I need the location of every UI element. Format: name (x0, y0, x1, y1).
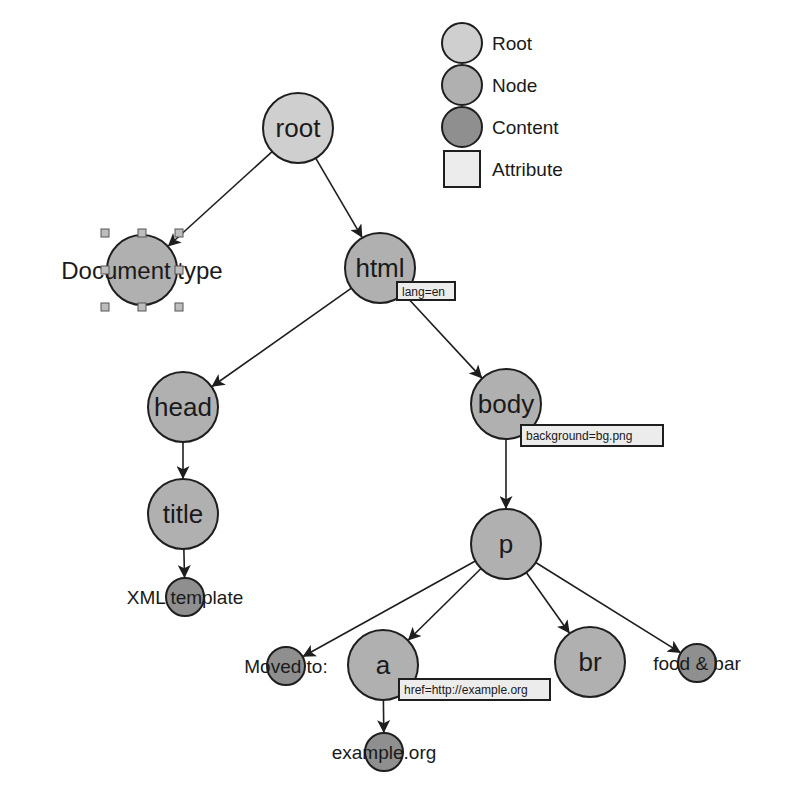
node-label: root (276, 113, 322, 143)
edge-p-to-a (409, 569, 481, 640)
selection-handle[interactable] (101, 303, 109, 311)
node-label: XML template (127, 587, 244, 608)
selection-handle[interactable] (138, 229, 146, 237)
legend: RootNodeContentAttribute (442, 23, 563, 187)
node-label: br (578, 647, 601, 677)
edge-root-to-doctype (169, 152, 272, 246)
selection-handle[interactable] (101, 266, 109, 274)
legend-item-root: Root (442, 23, 533, 63)
legend-item-content: Content (442, 107, 559, 147)
node-label: head (154, 392, 212, 422)
node-root[interactable]: root (263, 93, 333, 163)
node-title[interactable]: title (148, 479, 218, 549)
attribute-label: lang=en (402, 285, 445, 299)
attributes-layer: lang=enbackground=bg.pnghref=http://exam… (397, 282, 663, 700)
node-movedto[interactable]: Moved to: (244, 647, 327, 685)
node-label: html (355, 253, 404, 283)
attribute-html[interactable]: lang=en (397, 282, 455, 300)
attribute-label: background=bg.png (526, 429, 632, 443)
selection-handle[interactable] (138, 303, 146, 311)
selection-handle[interactable] (175, 303, 183, 311)
legend-label: Root (492, 33, 533, 54)
node-label: p (499, 529, 513, 559)
node-br[interactable]: br (555, 627, 625, 697)
node-label: body (478, 389, 534, 419)
node-head[interactable]: head (148, 372, 218, 442)
attribute-a[interactable]: href=http://example.org (399, 679, 550, 700)
attribute-label: href=http://example.org (404, 683, 528, 697)
node-label: food & bar (653, 653, 741, 674)
attribute-swatch-icon (444, 151, 480, 187)
node-foodbar[interactable]: food & bar (653, 644, 741, 682)
xml-tree-diagram: rootDocument typehtmlheadbodytitleXML te… (0, 0, 786, 803)
attribute-body[interactable]: background=bg.png (521, 425, 663, 446)
node-xmltemplate[interactable]: XML template (127, 578, 244, 616)
root-swatch-icon (442, 23, 482, 63)
node-label: Moved to: (244, 656, 327, 677)
selection-handle[interactable] (175, 229, 183, 237)
legend-item-node: Node (442, 65, 537, 105)
node-exampleorg[interactable]: example.org (332, 733, 437, 771)
node-label: a (376, 650, 391, 680)
node-label: Document type (61, 257, 222, 284)
legend-item-attribute: Attribute (444, 151, 563, 187)
edge-html-to-head (212, 288, 351, 386)
edge-title-to-xmltemplate (184, 549, 185, 577)
selection-handle[interactable] (175, 266, 183, 274)
content-swatch-icon (442, 107, 482, 147)
node-label: title (163, 499, 203, 529)
legend-label: Content (492, 117, 559, 138)
legend-label: Attribute (492, 159, 563, 180)
node-p[interactable]: p (471, 509, 541, 579)
selection-handle[interactable] (101, 229, 109, 237)
node-doctype[interactable]: Document type (61, 229, 222, 311)
edge-p-to-br (526, 573, 569, 633)
node-swatch-icon (442, 65, 482, 105)
node-label: example.org (332, 742, 437, 763)
legend-label: Node (492, 75, 537, 96)
edge-root-to-html (316, 158, 362, 237)
edge-html-to-body (404, 294, 482, 378)
